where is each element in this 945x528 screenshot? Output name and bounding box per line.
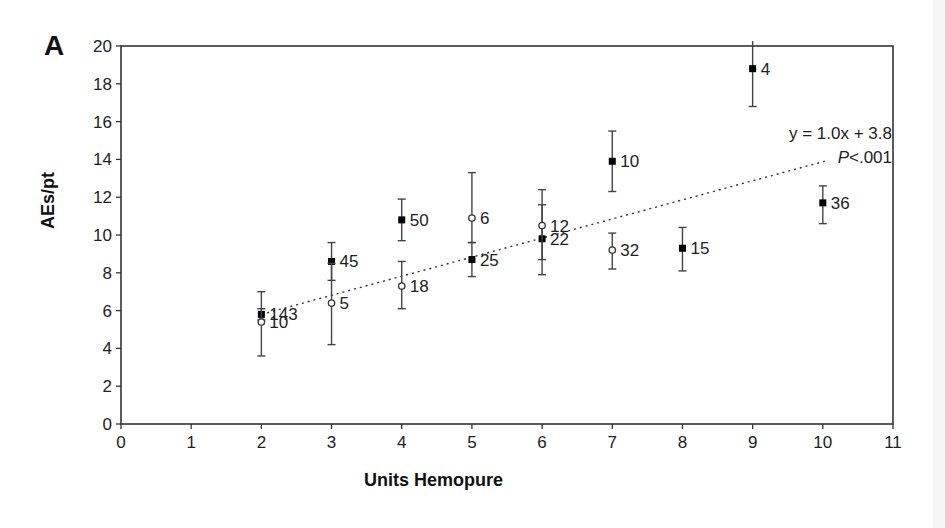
filled-square-point: 25 [468, 243, 499, 277]
square-marker [679, 245, 686, 252]
y-tick-label: 20 [93, 37, 112, 56]
y-axis-ticks: 02468101214161820 [93, 37, 121, 434]
data-points: 1434550252210154361051861232 [257, 41, 849, 356]
sample-size-label: 12 [550, 217, 569, 236]
sample-size-label: 6 [480, 209, 489, 228]
sample-size-label: 25 [480, 251, 499, 270]
x-tick-label: 10 [813, 433, 832, 452]
open-circle-point: 32 [608, 233, 639, 269]
sample-size-label: 50 [410, 211, 429, 230]
trendline-annotation: y = 1.0x + 3.8 P<.001 [789, 124, 892, 167]
x-tick-label: 0 [116, 433, 125, 452]
open-circle-point: 6 [468, 173, 489, 243]
p-symbol: P [838, 148, 850, 167]
filled-square-point: 15 [678, 227, 709, 270]
equation-label: y = 1.0x + 3.8 [789, 124, 892, 143]
open-circle-point: 18 [398, 261, 429, 308]
x-tick-label: 1 [186, 433, 195, 452]
square-marker [819, 199, 826, 206]
x-tick-label: 2 [257, 433, 266, 452]
sample-size-label: 45 [340, 252, 359, 271]
circle-marker [539, 222, 545, 228]
open-circle-point: 10 [257, 292, 288, 356]
y-tick-label: 18 [93, 75, 112, 94]
sample-size-label: 15 [690, 239, 709, 258]
x-tick-label: 9 [748, 433, 757, 452]
x-tick-label: 4 [397, 433, 406, 452]
circle-marker [399, 283, 405, 289]
plot-border [121, 46, 893, 424]
square-marker [398, 216, 405, 223]
circle-marker [469, 215, 475, 221]
sample-size-label: 36 [831, 194, 850, 213]
filled-square-point: 4 [749, 41, 770, 106]
sample-size-label: 5 [340, 294, 349, 313]
x-tick-label: 5 [467, 433, 476, 452]
filled-square-point: 50 [398, 199, 429, 241]
y-tick-label: 16 [93, 113, 112, 132]
x-tick-label: 6 [537, 433, 546, 452]
y-tick-label: 4 [103, 339, 112, 358]
x-tick-label: 8 [678, 433, 687, 452]
filled-square-point: 10 [608, 131, 639, 191]
filled-square-point: 36 [819, 186, 850, 224]
x-tick-label: 11 [884, 433, 902, 452]
circle-marker [609, 247, 615, 253]
sample-size-label: 32 [620, 241, 639, 260]
y-tick-label: 12 [93, 188, 112, 207]
y-tick-label: 6 [103, 302, 112, 321]
x-tick-label: 7 [608, 433, 617, 452]
sample-size-label: 18 [410, 277, 429, 296]
square-marker [609, 158, 616, 165]
scatter-plot: 02468101214161820 01234567891011 1434550… [0, 0, 945, 528]
open-circle-point: 12 [538, 190, 569, 260]
open-circle-point: 5 [328, 263, 349, 344]
x-axis-ticks: 01234567891011 [116, 424, 902, 452]
circle-marker [328, 300, 334, 306]
sample-size-label: 10 [620, 152, 639, 171]
y-tick-label: 8 [103, 264, 112, 283]
y-tick-label: 14 [93, 150, 112, 169]
y-tick-label: 10 [93, 226, 112, 245]
x-tick-label: 3 [327, 433, 336, 452]
p-value-label: P<.001 [838, 148, 892, 167]
circle-marker [258, 319, 264, 325]
y-tick-label: 2 [103, 377, 112, 396]
sample-size-label: 4 [761, 60, 770, 79]
square-marker [749, 65, 756, 72]
square-marker [468, 256, 475, 263]
p-value: <.001 [849, 148, 892, 167]
y-tick-label: 0 [103, 415, 112, 434]
sample-size-label: 10 [269, 313, 288, 332]
plot-frame [121, 46, 893, 424]
